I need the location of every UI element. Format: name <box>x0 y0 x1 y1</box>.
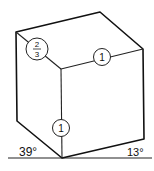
svg-text:1: 1 <box>99 52 105 63</box>
ratio-label-two-thirds: 2 3 <box>26 38 48 60</box>
cube-diagram: 2 3 1 1 39° 13° <box>0 0 154 171</box>
svg-text:1: 1 <box>58 123 64 134</box>
left-angle-label: 39° <box>19 145 37 159</box>
right-angle-label: 13° <box>127 146 144 158</box>
ratio-label-vertical: 1 <box>53 120 70 137</box>
cube-outline <box>16 12 144 158</box>
ratio-label-right: 1 <box>94 49 111 66</box>
front-vertical-edge <box>61 69 62 158</box>
svg-text:2: 2 <box>35 40 40 49</box>
svg-text:3: 3 <box>35 50 40 59</box>
